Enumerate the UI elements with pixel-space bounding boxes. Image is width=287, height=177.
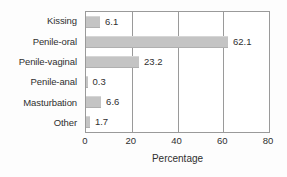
x-tick-label-80: 80: [263, 136, 274, 146]
bar-masturbation: [86, 96, 101, 108]
bar-value-penile-anal: 0.3: [88, 77, 106, 87]
category-label-masturbation: Masturbation: [0, 92, 82, 112]
x-axis-ticks: 020406080: [85, 136, 270, 149]
bar-value-masturbation: 6.6: [101, 97, 119, 107]
bar-penile-vaginal: [86, 56, 139, 68]
plot-area: 6.1 62.1 23.2 0.3 6.6 1.7: [85, 11, 270, 133]
bar-value-other: 1.7: [90, 117, 108, 127]
table-row: 6.6: [86, 92, 269, 112]
bar-chart: Kissing Penile-oral Penile-vaginal Penil…: [0, 0, 287, 177]
bar-value-kissing: 6.1: [100, 17, 118, 27]
bar-value-penile-oral: 62.1: [228, 37, 252, 47]
bar-series: 6.1 62.1 23.2 0.3 6.6 1.7: [86, 12, 269, 132]
table-row: 62.1: [86, 32, 269, 52]
x-tick-label-40: 40: [171, 136, 182, 146]
table-row: 23.2: [86, 52, 269, 72]
category-label-penile-vaginal: Penile-vaginal: [0, 52, 82, 72]
x-tick-label-60: 60: [217, 136, 228, 146]
x-tick-label-20: 20: [125, 136, 136, 146]
bar-penile-oral: [86, 36, 228, 48]
table-row: 0.3: [86, 72, 269, 92]
category-label-other: Other: [0, 113, 82, 133]
x-axis-title: Percentage: [85, 154, 270, 164]
bar-value-penile-vaginal: 23.2: [139, 57, 163, 67]
category-axis: Kissing Penile-oral Penile-vaginal Penil…: [0, 11, 82, 133]
category-label-penile-anal: Penile-anal: [0, 72, 82, 92]
category-label-penile-oral: Penile-oral: [0, 31, 82, 51]
bar-kissing: [86, 16, 100, 28]
x-tick-label-0: 0: [82, 136, 87, 146]
category-label-kissing: Kissing: [0, 11, 82, 31]
table-row: 1.7: [86, 112, 269, 132]
table-row: 6.1: [86, 12, 269, 32]
